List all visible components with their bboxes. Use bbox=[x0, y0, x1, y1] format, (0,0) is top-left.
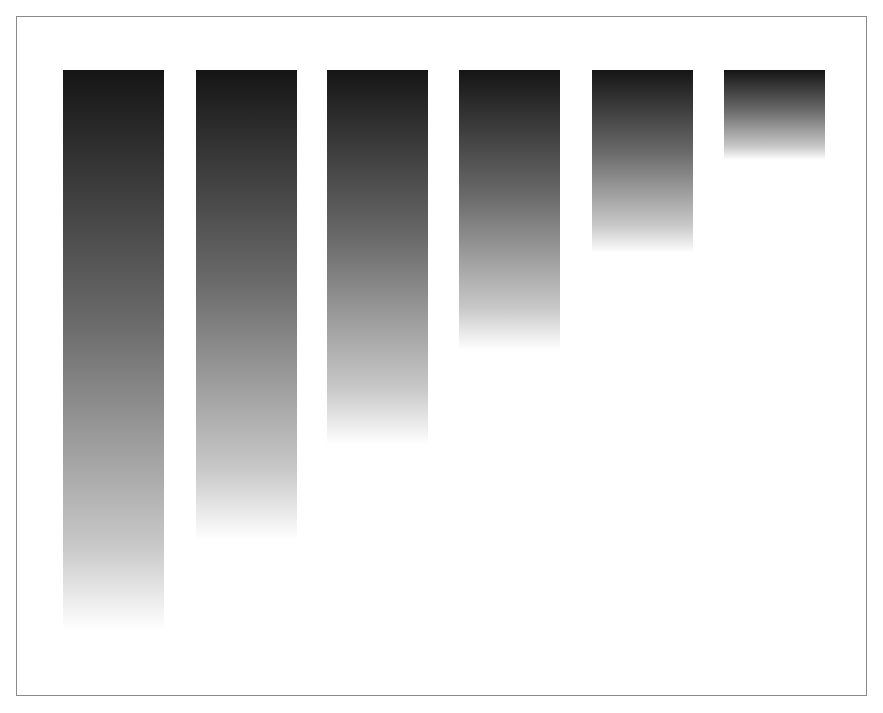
bar-2 bbox=[196, 70, 297, 540]
bar-4 bbox=[459, 70, 560, 350]
bar-5 bbox=[592, 70, 693, 253]
bar-1 bbox=[63, 70, 164, 630]
bar-3 bbox=[327, 70, 428, 445]
chart-frame bbox=[16, 16, 867, 696]
bar-6 bbox=[724, 70, 825, 160]
